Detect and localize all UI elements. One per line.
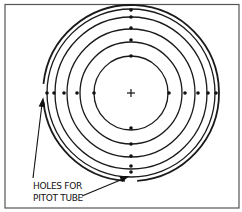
traverse-point bbox=[129, 142, 133, 146]
traverse-point bbox=[206, 91, 210, 95]
traverse-point bbox=[129, 170, 133, 174]
traverse-point bbox=[167, 91, 171, 95]
arrow-left-hole bbox=[33, 104, 42, 178]
arrowhead-icon bbox=[40, 99, 45, 107]
traverse-point bbox=[75, 91, 79, 95]
pitot-label-line1: HOLES FOR bbox=[33, 180, 82, 192]
traverse-point bbox=[45, 91, 49, 95]
traverse-point bbox=[129, 126, 133, 130]
traverse-point bbox=[62, 91, 66, 95]
traverse-point bbox=[129, 54, 133, 58]
traverse-point bbox=[129, 154, 133, 158]
traverse-point bbox=[92, 91, 96, 95]
traverse-point bbox=[196, 91, 200, 95]
traverse-point bbox=[52, 91, 56, 95]
traverse-point bbox=[129, 164, 133, 168]
pitot-label-line2: PITOT TUBE bbox=[33, 192, 83, 204]
traverse-point bbox=[129, 15, 133, 19]
traverse-point bbox=[214, 91, 218, 95]
traverse-point bbox=[129, 38, 133, 42]
traverse-point bbox=[129, 8, 133, 12]
traverse-point bbox=[183, 91, 187, 95]
arrow-bottom-hole bbox=[82, 179, 123, 196]
center-cross-icon bbox=[127, 89, 135, 97]
traverse-point bbox=[129, 26, 133, 30]
